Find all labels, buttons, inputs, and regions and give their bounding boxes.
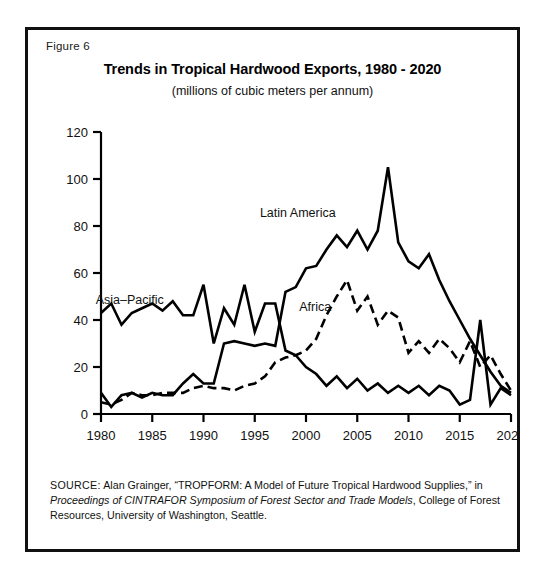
svg-text:1995: 1995 (240, 428, 269, 443)
svg-text:80: 80 (74, 219, 88, 234)
svg-text:0: 0 (81, 407, 88, 422)
chart-axes (101, 132, 511, 414)
svg-text:2020: 2020 (497, 428, 517, 443)
source-text-part1: Alan Grainger, “TROPFORM: A Model of Fut… (103, 479, 483, 491)
series-annotation: Africa (299, 300, 331, 314)
source-label: SOURCE: (50, 479, 101, 491)
series-annotation: Latin America (260, 206, 336, 220)
svg-text:100: 100 (66, 172, 88, 187)
svg-text:60: 60 (74, 266, 88, 281)
svg-text:120: 120 (66, 125, 88, 140)
svg-text:2010: 2010 (394, 428, 423, 443)
svg-text:1985: 1985 (138, 428, 167, 443)
svg-text:40: 40 (74, 313, 88, 328)
figure-frame: Figure 6 Trends in Tropical Hardwood Exp… (25, 27, 520, 552)
x-axis-tick-labels: 198019851990199520002005201020152020 (87, 428, 517, 443)
source-note: SOURCE: Alan Grainger, “TROPFORM: A Mode… (50, 478, 501, 524)
source-text-italic: Proceedings of CINTRAFOR Symposium of Fo… (50, 494, 413, 506)
chart-plot-area: 020406080100120 198019851990199520002005… (28, 118, 517, 448)
figure-number: Figure 6 (46, 40, 90, 52)
y-axis-tick-labels: 020406080100120 (66, 125, 88, 422)
svg-text:20: 20 (74, 360, 88, 375)
series-annotation: Asia–Pacific (96, 293, 164, 307)
svg-text:2015: 2015 (445, 428, 474, 443)
chart-series-lines (101, 167, 511, 407)
line-chart-svg: 020406080100120 198019851990199520002005… (28, 118, 517, 448)
chart-title: Trends in Tropical Hardwood Exports, 198… (28, 61, 517, 77)
svg-text:2000: 2000 (292, 428, 321, 443)
chart-series-annotations: Asia–PacificLatin AmericaAfrica (96, 206, 336, 314)
series-line-latin-america (101, 167, 511, 407)
chart-subtitle: (millions of cubic meters per annum) (28, 84, 517, 98)
svg-text:1980: 1980 (87, 428, 116, 443)
svg-text:1990: 1990 (189, 428, 218, 443)
svg-text:2005: 2005 (343, 428, 372, 443)
